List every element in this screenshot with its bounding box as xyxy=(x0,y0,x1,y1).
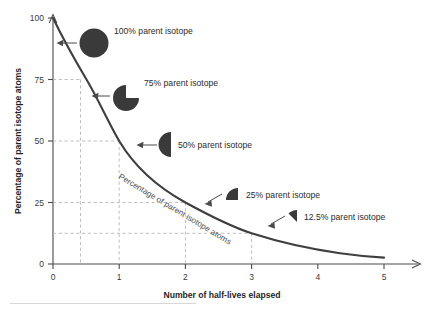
callout-label-100: 100% parent isotope xyxy=(114,26,193,36)
callout-arrow-line-25 xyxy=(208,194,222,202)
callout-arrow-line-12-5 xyxy=(271,216,285,224)
y-tick-label-100: 100 xyxy=(30,13,44,23)
pie-glyph-75 xyxy=(113,85,139,111)
y-tick-label-0: 0 xyxy=(39,259,44,269)
x-ticks-group: 0 1 2 3 4 5 xyxy=(51,264,387,282)
callout-arrowhead-50 xyxy=(137,142,144,148)
x-tick-label-3: 3 xyxy=(249,272,254,282)
x-axis-title: Number of half-lives elapsed xyxy=(163,290,280,300)
annotation-75-percent: 75% parent isotope xyxy=(92,78,219,111)
callout-label-50: 50% parent isotope xyxy=(178,140,252,150)
callout-label-12-5: 12.5% parent isotope xyxy=(304,212,385,222)
chart-page: 0 25 50 75 100 0 1 2 3 4 5 xyxy=(0,0,431,311)
annotation-25-percent: 25% parent isotope xyxy=(205,188,321,207)
x-tick-label-1: 1 xyxy=(117,272,122,282)
annotation-100-percent: 100% parent isotope xyxy=(57,26,194,58)
x-tick-label-0: 0 xyxy=(51,272,56,282)
callout-arrowhead-100 xyxy=(57,40,64,46)
x-tick-label-4: 4 xyxy=(315,272,320,282)
y-tick-label-25: 25 xyxy=(35,198,45,208)
curve-inline-label: Percentage of parent isotope atoms xyxy=(117,172,233,247)
x-tick-label-2: 2 xyxy=(183,272,188,282)
pie-glyph-100 xyxy=(80,29,109,58)
callout-label-75: 75% parent isotope xyxy=(144,78,218,88)
pie-glyph-12-5 xyxy=(289,210,298,222)
y-axis-title: Percentage of parent isotope atoms xyxy=(13,68,23,214)
callout-label-25: 25% parent isotope xyxy=(246,190,320,200)
annotation-12-5-percent: 12.5% parent isotope xyxy=(268,210,386,229)
y-tick-label-75: 75 xyxy=(35,75,45,85)
decay-curve-chart: 0 25 50 75 100 0 1 2 3 4 5 xyxy=(0,0,431,311)
annotation-50-percent: 50% parent isotope xyxy=(137,132,253,157)
pie-glyph-50 xyxy=(158,132,171,157)
y-ticks-group: 0 25 50 75 100 xyxy=(30,13,53,269)
pie-glyph-25 xyxy=(226,188,238,200)
y-tick-label-50: 50 xyxy=(35,136,45,146)
x-tick-label-5: 5 xyxy=(382,272,387,282)
